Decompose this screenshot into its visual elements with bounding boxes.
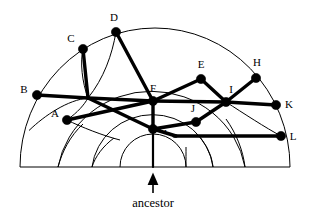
node-label-B: B [20,83,27,95]
node-label-G: G [159,123,167,135]
sector-line-d [88,32,116,98]
node-C[interactable] [78,44,87,53]
arrow-head-icon [148,173,159,186]
node-label-K: K [285,98,293,110]
ancestor-arrow [148,173,159,194]
node-F[interactable] [148,96,157,105]
spoke-1 [58,124,83,167]
node-label-C: C [67,32,74,44]
edge-F-E [153,79,201,101]
edge-P1-F [88,98,153,101]
node-label-H: H [253,56,261,68]
node-D[interactable] [111,27,120,36]
node-K[interactable] [271,100,280,109]
node-A[interactable] [62,115,71,124]
node-J[interactable] [191,117,200,126]
tree-edges [37,32,281,167]
node-label-L: L [290,130,297,142]
node-B[interactable] [32,90,41,99]
edge-B-P1 [37,95,88,98]
edge-D-F [116,32,153,101]
node-H[interactable] [251,73,260,82]
edge-A-F [67,101,153,120]
edge-I-K [226,102,276,105]
spoke-5 [226,119,245,167]
node-L[interactable] [276,131,285,140]
node-label-J: J [191,102,196,114]
node-label-A: A [51,107,59,119]
node-I[interactable] [221,97,230,106]
genealogy-diagram: A B C D E F G H I J K L ancestor [0,0,312,218]
figure-canvas: A B C D E F G H I J K L ancestor [0,0,312,218]
node-E[interactable] [196,74,205,83]
edge-E-I [201,79,226,102]
edge-F-I [153,101,226,102]
spoke-4 [196,133,213,167]
node-label-F: F [150,82,156,94]
node-label-E: E [198,58,205,70]
node-label-D: D [110,11,118,23]
node-G[interactable] [148,124,157,133]
ancestor-caption: ancestor [132,196,174,210]
node-label-I: I [229,83,233,95]
edge-J-I [196,102,226,122]
